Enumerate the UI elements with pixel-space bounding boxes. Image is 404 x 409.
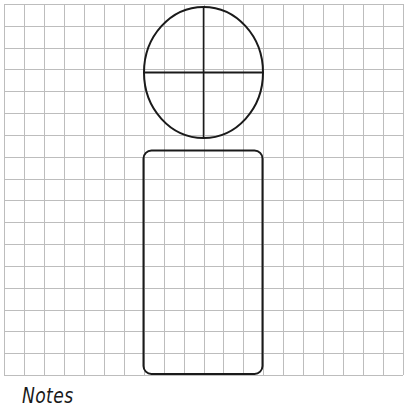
body-rectangle [144, 151, 263, 375]
notes-heading: Notes [22, 383, 74, 409]
grid-diagram [0, 0, 404, 409]
